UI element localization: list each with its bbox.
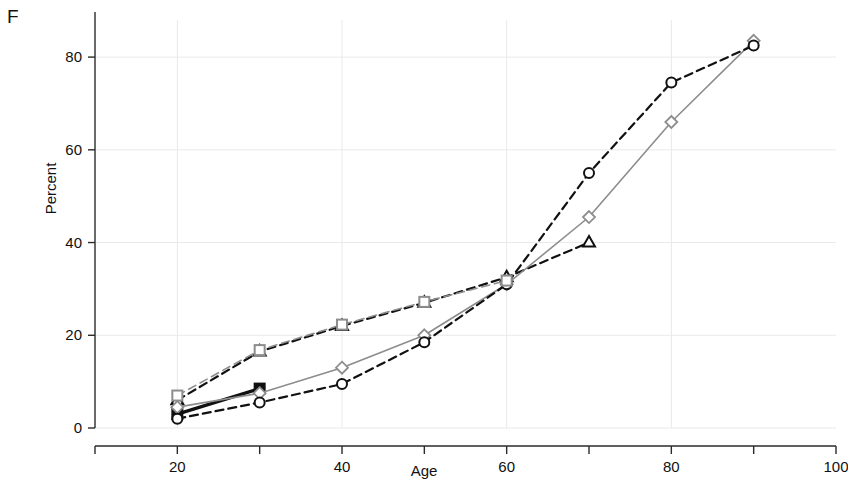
series-square-solid-black — [172, 384, 264, 420]
series-circle-dashed-black — [172, 41, 758, 424]
y-tick-label: 20 — [65, 326, 82, 343]
marker-circle — [255, 398, 265, 408]
x-tick-label: 60 — [498, 458, 515, 475]
marker-square — [502, 276, 512, 286]
x-tick-label: 20 — [169, 458, 186, 475]
marker-circle — [172, 414, 182, 424]
marker-circle — [666, 78, 676, 88]
marker-diamond — [336, 362, 348, 374]
plot-canvas: 02040608020406080100 — [0, 0, 848, 486]
y-tick-label: 60 — [65, 141, 82, 158]
y-tick-label: 0 — [74, 419, 82, 436]
x-tick-label: 80 — [663, 458, 680, 475]
marker-circle — [749, 41, 759, 51]
x-tick-label: 100 — [823, 458, 848, 475]
y-tick-label: 80 — [65, 48, 82, 65]
series-triangle-dashed — [171, 236, 595, 404]
marker-square — [419, 297, 429, 307]
y-tick-label: 40 — [65, 234, 82, 251]
marker-circle — [337, 379, 347, 389]
chart-figure: F Percent Age 02040608020406080100 — [0, 0, 848, 486]
x-tick-label: 40 — [334, 458, 351, 475]
marker-square — [337, 320, 347, 330]
marker-square — [172, 391, 182, 401]
series-line — [177, 46, 753, 419]
marker-triangle — [583, 236, 595, 247]
marker-square — [255, 345, 265, 355]
marker-circle — [584, 168, 594, 178]
marker-circle — [419, 337, 429, 347]
series-line — [177, 243, 589, 401]
